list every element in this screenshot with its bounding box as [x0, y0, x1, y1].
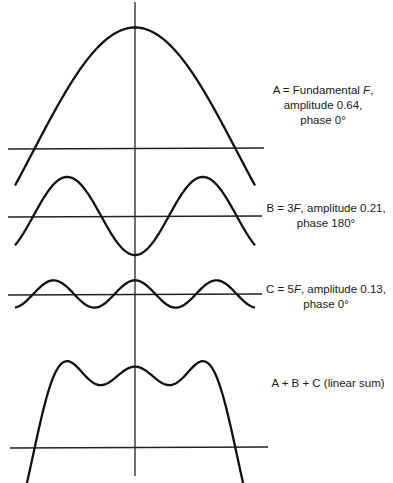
- label-a: A = Fundamental F, amplitude 0.64, phase…: [256, 83, 390, 128]
- label-b-italic: F: [294, 202, 301, 214]
- label-c-phase: phase 0°: [303, 298, 349, 310]
- label-b-text: B = 3: [266, 202, 293, 214]
- label-c: C = 5F, amplitude 0.13, phase 0°: [258, 282, 393, 312]
- waveform-diagram: [0, 0, 393, 483]
- label-b: B = 3F, amplitude 0.21, phase 180°: [258, 201, 393, 231]
- baseline-b: [8, 216, 262, 217]
- label-b-text-post: , amplitude 0.21,: [301, 202, 386, 214]
- baseline-a: [8, 148, 264, 149]
- label-c-text: C = 5: [266, 283, 294, 295]
- label-a-phase: phase 0°: [300, 114, 346, 126]
- label-sum: A + B + C (linear sum): [264, 376, 392, 391]
- label-c-text-post: , amplitude 0.13,: [301, 283, 386, 295]
- label-a-text-post: ,: [370, 84, 373, 96]
- label-a-text: A = Fundamental: [273, 84, 363, 96]
- label-b-phase: phase 180°: [297, 217, 355, 229]
- baseline-sum: [10, 447, 268, 448]
- label-c-italic: F: [294, 283, 301, 295]
- label-a-amplitude: amplitude 0.64,: [284, 99, 363, 111]
- baseline-c: [8, 294, 262, 295]
- label-sum-text: A + B + C (linear sum): [271, 377, 384, 389]
